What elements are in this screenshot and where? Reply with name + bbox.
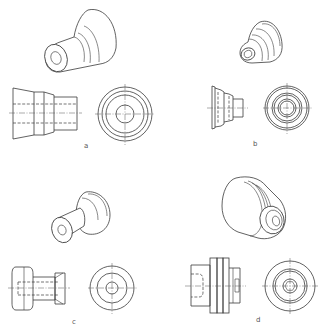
panel-a-isometric-view [41, 9, 116, 74]
panel-d-label: d [256, 316, 260, 324]
panel-b: b [207, 21, 312, 148]
panel-d-end-view [262, 258, 318, 314]
panel-a-end-view [95, 84, 155, 145]
panel-b-isometric-view [239, 21, 282, 63]
technical-drawing-sheet: a [0, 0, 330, 334]
panel-a-label: a [84, 142, 88, 150]
panel-d-front-view [185, 258, 246, 313]
panel-c-isometric-view [48, 192, 110, 246]
panel-a-front-view [9, 88, 82, 139]
panel-a: a [9, 9, 155, 150]
panel-b-end-view [263, 83, 312, 134]
panel-c: c [8, 192, 137, 326]
panel-c-front-view [8, 267, 70, 310]
panel-b-front-view [207, 86, 248, 129]
panel-c-end-view [88, 263, 137, 314]
panel-b-label: b [253, 140, 258, 148]
panel-d: d [185, 177, 318, 324]
panel-c-label: c [72, 318, 76, 326]
panel-d-isometric-view [222, 177, 287, 239]
